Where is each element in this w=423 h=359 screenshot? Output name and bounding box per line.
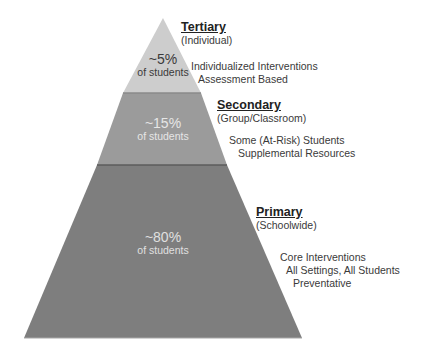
tier-title: Tertiary bbox=[181, 20, 232, 34]
tier-scope: (Group/Classroom) bbox=[217, 112, 306, 125]
pyramid-graphic bbox=[0, 0, 423, 359]
tier-tertiary-description: Individualized Interventions bbox=[191, 60, 318, 73]
tier-primary-description: Preventative bbox=[293, 277, 351, 290]
percent-value: ~15% bbox=[118, 116, 208, 131]
tier-secondary-percent: ~15% of students bbox=[118, 116, 208, 142]
percent-value: ~5% bbox=[126, 52, 200, 67]
tier-tertiary-label: Tertiary (Individual) bbox=[181, 20, 232, 47]
tier-tertiary-description: Assessment Based bbox=[198, 73, 288, 86]
tier-title: Secondary bbox=[217, 98, 306, 112]
tier-scope: (Individual) bbox=[181, 34, 232, 47]
percent-caption: of students bbox=[118, 245, 208, 256]
tier-secondary-description: Supplemental Resources bbox=[238, 147, 355, 160]
tier-secondary-label: Secondary (Group/Classroom) bbox=[217, 98, 306, 125]
percent-caption: of students bbox=[118, 131, 208, 142]
tier-tertiary-percent: ~5% of students bbox=[126, 52, 200, 78]
percent-caption: of students bbox=[126, 67, 200, 78]
tier-primary-percent: ~80% of students bbox=[118, 230, 208, 256]
tier-scope: (Schoolwide) bbox=[256, 219, 317, 232]
tier-primary-label: Primary (Schoolwide) bbox=[256, 205, 317, 232]
tier-secondary-description: Some (At-Risk) Students bbox=[229, 134, 345, 147]
tier-primary-description: Core Interventions bbox=[280, 251, 366, 264]
percent-value: ~80% bbox=[118, 230, 208, 245]
tier-title: Primary bbox=[256, 205, 317, 219]
tier-primary-description: All Settings, All Students bbox=[286, 264, 400, 277]
